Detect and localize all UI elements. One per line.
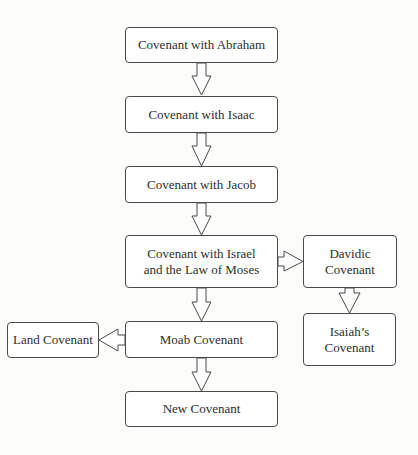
node-new-covenant: New Covenant xyxy=(125,391,278,427)
node-land-covenant: Land Covenant xyxy=(7,322,99,358)
node-label: Isaiah’s Covenant xyxy=(325,324,375,356)
node-label: Covenant with Jacob xyxy=(147,177,256,193)
node-label: Covenant with Isaac xyxy=(148,107,254,123)
node-moab-covenant: Moab Covenant xyxy=(125,321,278,358)
node-covenant-with-abraham: Covenant with Abraham xyxy=(125,27,278,63)
block-arrow-down-icon xyxy=(192,63,211,95)
node-label: New Covenant xyxy=(163,401,241,417)
block-arrow-down-icon xyxy=(192,133,211,166)
block-arrow-down-icon xyxy=(192,203,211,235)
node-davidic-covenant: Davidic Covenant xyxy=(303,235,397,288)
node-covenant-with-israel: Covenant with Israel and the Law of Mose… xyxy=(125,235,278,288)
block-arrow-right-icon xyxy=(278,251,303,271)
block-arrow-down-icon xyxy=(192,358,211,391)
block-arrow-down-icon xyxy=(192,288,211,321)
node-label: Land Covenant xyxy=(13,332,93,348)
node-covenant-with-isaac: Covenant with Isaac xyxy=(125,96,278,133)
node-label: Covenant with Israel and the Law of Mose… xyxy=(144,246,260,278)
node-isaiahs-covenant: Isaiah’s Covenant xyxy=(303,313,396,366)
node-label: Moab Covenant xyxy=(160,332,243,348)
node-label: Covenant with Abraham xyxy=(138,37,265,53)
block-arrow-down-icon xyxy=(339,288,360,313)
node-covenant-with-jacob: Covenant with Jacob xyxy=(125,166,278,203)
connector-arrows xyxy=(0,0,418,455)
block-arrow-left-icon xyxy=(99,329,125,351)
node-label: Davidic Covenant xyxy=(325,246,375,278)
